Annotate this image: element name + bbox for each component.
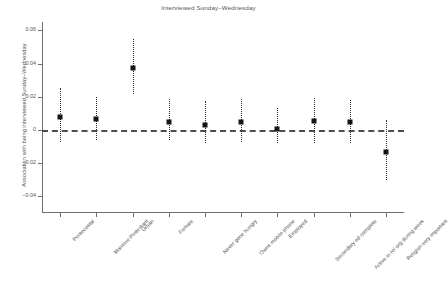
data-point-marker: [239, 120, 244, 125]
y-tick-mark: [38, 196, 42, 197]
y-tick-label: 0: [33, 126, 36, 132]
y-tick-mark: [38, 97, 42, 98]
data-point-marker: [166, 120, 171, 125]
x-tick-mark: [133, 213, 134, 217]
y-tick-label: 0.02: [26, 93, 37, 99]
data-point-marker: [58, 114, 63, 119]
x-tick-mark: [277, 213, 278, 217]
x-tick-mark: [96, 213, 97, 217]
x-tick-mark: [169, 213, 170, 217]
y-tick-label: −0.02: [22, 159, 36, 165]
x-tick-mark: [350, 213, 351, 217]
x-tick-mark: [386, 213, 387, 217]
data-point-marker: [383, 149, 388, 154]
y-tick-mark: [38, 130, 42, 131]
data-point-marker: [94, 117, 99, 122]
plot-area: 0.060.040.020−0.02−0.04 PentecostalMainl…: [42, 22, 404, 213]
data-point-marker: [347, 120, 352, 125]
x-category-label: Pentecostal: [71, 218, 95, 242]
y-axis-label: Association with being interviewed Sunda…: [21, 20, 27, 210]
data-point-marker: [202, 122, 207, 127]
x-category-label: Never gone hungry: [221, 218, 258, 255]
x-category-label: Secondary ed complete: [333, 218, 377, 262]
x-tick-mark: [241, 213, 242, 217]
x-category-label: Female: [177, 218, 194, 235]
y-tick-label: 0.04: [26, 60, 37, 66]
data-point-marker: [275, 126, 280, 131]
x-tick-mark: [205, 213, 206, 217]
y-tick-label: −0.04: [22, 192, 36, 198]
x-tick-mark: [60, 213, 61, 217]
y-tick-mark: [38, 64, 42, 65]
y-tick-label: 0.06: [26, 26, 37, 32]
y-tick-mark: [38, 30, 42, 31]
data-point-marker: [130, 65, 135, 70]
data-point-marker: [311, 118, 316, 123]
chart-title: Interviewed Sunday–Wednesday: [0, 4, 417, 11]
x-category-label: Religion very important: [405, 218, 448, 261]
x-tick-mark: [314, 213, 315, 217]
y-tick-mark: [38, 163, 42, 164]
